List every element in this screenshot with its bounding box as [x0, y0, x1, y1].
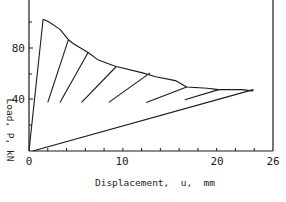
- x-tick-label-20: 20: [210, 155, 223, 168]
- series-unloading-3: [82, 67, 117, 103]
- x-axis-title: Displacement, u, mm: [95, 177, 215, 188]
- x-tick-label-0: 0: [26, 155, 33, 168]
- y-axis-title: Load, P, kN: [5, 99, 16, 162]
- y-tick-label-80: 80: [12, 42, 25, 55]
- series-unloading-5: [146, 87, 186, 102]
- series-reloading: [33, 90, 254, 151]
- series-unloading-4: [109, 73, 150, 103]
- x-tick-label-26: 26: [266, 155, 279, 168]
- series-envelope: [43, 19, 253, 91]
- x-tick-label-10: 10: [115, 155, 128, 168]
- load-displacement-chart: 0 10 20 26 80 40 Displacement, u, mm Loa…: [0, 0, 286, 202]
- series-initial-loading: [29, 19, 43, 151]
- data-series: [29, 19, 253, 151]
- series-unloading-6: [185, 90, 219, 100]
- series-unloading-2: [60, 53, 88, 103]
